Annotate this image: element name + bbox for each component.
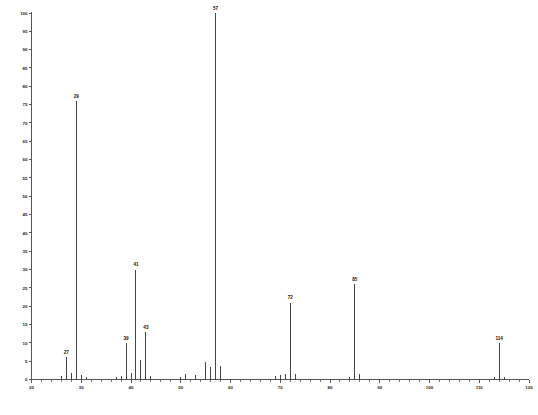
peak-series xyxy=(61,13,504,380)
y-axis-tick-label: 25 xyxy=(23,286,28,291)
x-axis-tick-label: 70 xyxy=(278,385,283,390)
x-axis-tick-label: 100 xyxy=(426,385,434,390)
peak-labels: 2729394143577285114 xyxy=(64,6,504,355)
peak-label: 39 xyxy=(123,336,129,341)
y-axis-tick-label: 70 xyxy=(23,121,28,126)
y-axis-tick-label: 55 xyxy=(23,176,28,181)
y-axis-tick-label: 40 xyxy=(23,231,28,236)
y-axis-tick-label: 20 xyxy=(23,304,28,309)
y-axis-tick-label: 85 xyxy=(23,66,28,71)
peak-label: 43 xyxy=(143,325,149,330)
y-axis-tick-label: 100 xyxy=(20,11,28,16)
y-axis-tick-label: 45 xyxy=(23,212,28,217)
y-axis-tick-label: 15 xyxy=(23,322,28,327)
x-axis: 2030405060708090100110120 xyxy=(29,380,533,391)
mass-spectrum-chart: 0510152025303540455055606570758085909510… xyxy=(0,0,538,415)
y-axis-tick-label: 90 xyxy=(23,47,28,52)
y-axis-tick-label: 30 xyxy=(23,267,28,272)
y-axis-tick-label: 75 xyxy=(23,102,28,107)
y-axis-tick-label: 5 xyxy=(25,359,28,364)
y-axis-tick-label: 0 xyxy=(25,377,28,382)
x-axis-tick-label: 60 xyxy=(228,385,233,390)
x-axis-tick-label: 120 xyxy=(525,385,533,390)
peak-label: 114 xyxy=(495,336,503,341)
spectrum-plot-area: 0510152025303540455055606570758085909510… xyxy=(0,0,538,415)
peak-label: 57 xyxy=(213,6,219,11)
y-axis-tick-label: 65 xyxy=(23,139,28,144)
x-axis-tick-label: 40 xyxy=(129,385,134,390)
x-axis-tick-label: 110 xyxy=(476,385,484,390)
peak-label: 72 xyxy=(288,295,294,300)
peak-label: 27 xyxy=(64,350,70,355)
x-axis-tick-label: 30 xyxy=(79,385,84,390)
x-axis-tick-label: 20 xyxy=(29,385,34,390)
y-axis-tick-label: 95 xyxy=(23,29,28,34)
peak-label: 85 xyxy=(352,277,358,282)
y-axis-tick-label: 80 xyxy=(23,84,28,89)
x-axis-tick-label: 50 xyxy=(178,385,183,390)
x-axis-tick-label: 80 xyxy=(328,385,333,390)
y-axis-tick-label: 60 xyxy=(23,157,28,162)
peak-label: 29 xyxy=(74,94,80,99)
peak-label: 41 xyxy=(133,262,139,267)
y-axis: 0510152025303540455055606570758085909510… xyxy=(20,11,31,383)
x-axis-tick-label: 90 xyxy=(377,385,382,390)
y-axis-tick-label: 50 xyxy=(23,194,28,199)
y-axis-tick-label: 35 xyxy=(23,249,28,254)
y-axis-tick-label: 10 xyxy=(23,341,28,346)
